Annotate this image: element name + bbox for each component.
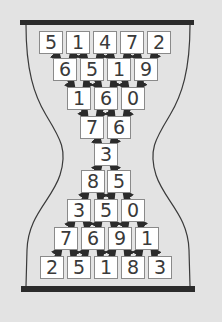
cell-top-r0-c4: 2 (147, 31, 171, 54)
cell-top-r1-c3: 9 (134, 58, 158, 81)
cell-top-r0-c3: 7 (120, 31, 144, 54)
cell-bottom-r3-c2: 1 (94, 256, 118, 279)
cell-bottom-r2-c0: 7 (54, 227, 78, 250)
cell-top-r1-c1: 5 (80, 58, 104, 81)
cell-top-r0-c2: 4 (93, 31, 117, 54)
cell-bottom-r2-c2: 9 (108, 227, 132, 250)
cell-bottom-r2-c3: 1 (135, 227, 159, 250)
cell-top-r3-c0: 7 (80, 116, 104, 139)
cell-bottom-r1-c2: 0 (121, 199, 145, 222)
cell-center: 3 (94, 143, 118, 166)
cell-top-r1-c2: 1 (107, 58, 131, 81)
cell-bottom-r3-c0: 2 (40, 256, 64, 279)
cell-top-r0-c1: 1 (66, 31, 90, 54)
cell-bottom-r3-c3: 8 (121, 256, 145, 279)
cell-top-r2-c2: 0 (121, 87, 145, 110)
cell-bottom-r3-c4: 3 (148, 256, 172, 279)
cell-top-r2-c1: 6 (94, 87, 118, 110)
hourglass-diagram: 5 1 4 7 2 6 5 1 9 1 6 0 7 6 3 8 5 3 5 0 … (0, 0, 222, 322)
cell-top-r3-c1: 6 (107, 116, 131, 139)
cell-bottom-r0-c0: 8 (81, 170, 105, 193)
bottom-bar (21, 286, 195, 292)
cell-bottom-r1-c0: 3 (67, 199, 91, 222)
cell-bottom-r0-c1: 5 (107, 170, 131, 193)
top-bar (20, 20, 194, 25)
cell-top-r1-c0: 6 (53, 58, 77, 81)
cell-top-r0-c0: 5 (39, 31, 63, 54)
cell-bottom-r3-c1: 5 (67, 256, 91, 279)
cell-bottom-r2-c1: 6 (81, 227, 105, 250)
cell-bottom-r1-c1: 5 (94, 199, 118, 222)
cell-top-r2-c0: 1 (67, 87, 91, 110)
